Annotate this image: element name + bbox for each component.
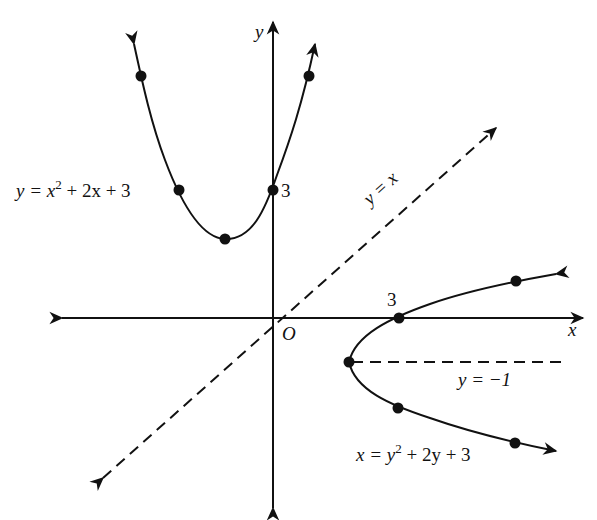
point-0-3 xyxy=(268,185,279,196)
equation-label-upward: y = x2 + 2x + 3 xyxy=(14,177,131,201)
point-6-1 xyxy=(511,276,522,287)
x-intercept-label: 3 xyxy=(387,289,397,310)
origin-label: O xyxy=(282,323,296,344)
point-3-0 xyxy=(394,313,405,324)
point-1-6 xyxy=(304,71,315,82)
parabola-upward xyxy=(134,44,315,245)
point-6-neg3 xyxy=(510,438,521,449)
line-y-equals-x xyxy=(103,128,496,478)
point-vertex-2-neg1 xyxy=(344,357,355,368)
point-neg2-3 xyxy=(174,185,185,196)
y-axis-label: y xyxy=(253,21,264,42)
point-3-neg2 xyxy=(393,403,404,414)
x-axis-label: x xyxy=(567,319,577,340)
y-intercept-label: 3 xyxy=(281,180,291,201)
point-neg3-6 xyxy=(136,71,147,82)
point-vertex-neg1-2 xyxy=(220,234,231,245)
line-label-y-neg1: y = −1 xyxy=(456,369,511,390)
graph-canvas: y x O 3 3 y = x2 + 2x + 3 x = y2 + 2y + … xyxy=(0,0,597,520)
equation-label-rightward: x = y2 + 2y + 3 xyxy=(355,441,471,465)
line-label-y-equals-x: y = x xyxy=(357,167,402,211)
